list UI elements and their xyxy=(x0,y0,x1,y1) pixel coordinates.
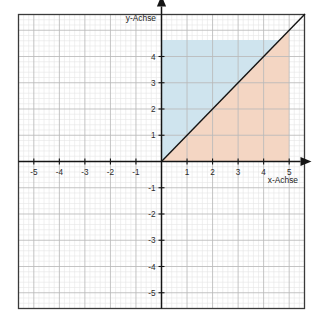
y-tick-label: -4 xyxy=(148,263,156,272)
y-tick-label: 2 xyxy=(151,105,156,114)
y-tick-label: -5 xyxy=(148,289,156,298)
x-tick-label: 3 xyxy=(236,168,241,177)
x-tick-label: -1 xyxy=(132,168,140,177)
y-tick-label: -1 xyxy=(148,184,156,193)
x-tick-label: -2 xyxy=(107,168,115,177)
y-tick-label: -2 xyxy=(148,210,156,219)
y-tick-label: 1 xyxy=(151,131,156,140)
x-tick-label: 1 xyxy=(185,168,190,177)
x-tick-label: -3 xyxy=(81,168,89,177)
y-tick-label: -3 xyxy=(148,236,156,245)
x-tick-label: -5 xyxy=(30,168,38,177)
y-axis-label: y-Achse xyxy=(126,13,157,23)
y-tick-label: 4 xyxy=(151,53,156,62)
x-tick-label: 4 xyxy=(261,168,266,177)
x-tick-label: 2 xyxy=(210,168,215,177)
coordinate-plane-figure: -5-4-3-2-112345-5-4-3-2-11234 y-Achse x-… xyxy=(0,0,317,325)
coordinate-plane-svg: -5-4-3-2-112345-5-4-3-2-11234 y-Achse x-… xyxy=(0,0,317,325)
x-axis-label: x-Achse xyxy=(268,175,299,185)
x-tick-label: -4 xyxy=(56,168,64,177)
y-tick-label: 3 xyxy=(151,79,156,88)
